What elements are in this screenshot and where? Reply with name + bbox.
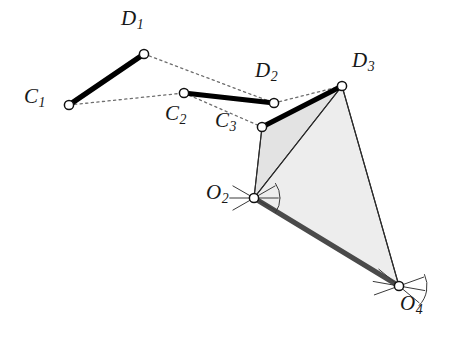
label-d1-subscript: 1 [137,17,144,32]
label-d2: D2 [255,60,278,84]
label-c3-letter: C [215,108,229,132]
label-d3-subscript: 3 [368,59,375,74]
label-o4-subscript: 4 [416,302,423,317]
label-c2-letter: C [165,101,179,125]
label-c2-subscript: 2 [180,112,187,127]
label-d3-letter: D [352,48,367,72]
linkage-svg [0,0,451,341]
label-o4-letter: O [400,291,415,315]
label-d3: D3 [352,50,375,74]
label-d1-letter: D [121,6,136,30]
label-o2-subscript: 2 [222,191,229,206]
label-d2-letter: D [255,58,270,82]
label-c2: C2 [165,103,186,127]
label-o2: O2 [206,182,229,206]
link-C1-D1 [69,54,144,105]
joint-c3[interactable] [257,122,266,131]
joint-o4[interactable] [394,281,403,290]
joint-c2[interactable] [179,88,188,97]
label-d2-subscript: 2 [271,69,278,84]
label-o4: O4 [400,293,423,317]
label-c1-letter: C [24,84,38,108]
label-c1-subscript: 1 [39,95,46,110]
label-c1: C1 [24,86,45,110]
label-o2-letter: O [206,180,221,204]
pivot-arc-o4-0 [424,274,427,291]
triangle-D3-O2-O4 [254,86,399,286]
joint-d3[interactable] [337,81,346,90]
joint-c1[interactable] [64,100,73,109]
joint-d1[interactable] [139,49,148,58]
label-c3: C3 [215,110,236,134]
shaded-triangles-group [254,86,399,286]
joint-o2[interactable] [249,193,258,202]
label-c3-subscript: 3 [230,119,237,134]
linkage-figure: C1D1C2D2C3D3O2O4 [0,0,451,341]
joint-d2[interactable] [269,98,278,107]
label-d1: D1 [121,8,144,32]
